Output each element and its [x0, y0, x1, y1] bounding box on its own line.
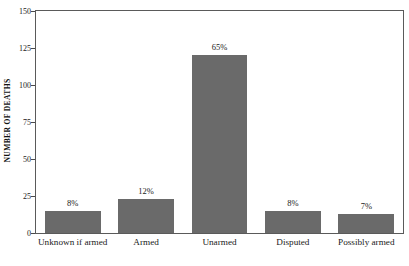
- bar: [338, 214, 394, 233]
- bar-group: 7%: [338, 11, 394, 233]
- bar-group: 65%: [192, 11, 248, 233]
- bar: [265, 211, 321, 233]
- x-axis-category-label: Disputed: [256, 237, 329, 247]
- y-axis-title-text: NUMBER OF DEATHS: [3, 78, 12, 162]
- y-axis-tick-mark: [31, 48, 35, 49]
- bar-value-label: 12%: [118, 186, 174, 196]
- x-axis-category-label: Unarmed: [183, 237, 256, 247]
- y-axis-tick-mark: [31, 11, 35, 12]
- y-axis-tick-mark: [31, 196, 35, 197]
- x-axis-category-labels: Unknown if armedArmedUnarmedDisputedPoss…: [36, 237, 403, 257]
- bar-value-label: 8%: [45, 198, 101, 208]
- y-axis-tick-mark: [31, 85, 35, 86]
- bar-value-label: 7%: [338, 201, 394, 211]
- y-axis-tick-label: 150: [19, 7, 31, 16]
- x-axis-category-label: Possibly armed: [330, 237, 403, 247]
- y-axis-tick-label: 100: [19, 81, 31, 90]
- bar: [118, 199, 174, 233]
- bar: [192, 55, 248, 233]
- y-axis-tick-mark: [31, 233, 35, 234]
- y-axis-tick-label: 25: [23, 192, 31, 201]
- y-axis-tick-mark: [31, 122, 35, 123]
- y-axis-tick-label: 125: [19, 44, 31, 53]
- bar-value-label: 8%: [265, 198, 321, 208]
- bars-area: 8%12%65%8%7%: [36, 11, 403, 233]
- x-axis-category-label: Armed: [109, 237, 182, 247]
- y-axis-tick-labels: 0255075100125150: [12, 0, 33, 240]
- bar-group: 8%: [45, 11, 101, 233]
- y-axis-tick-label: 75: [23, 118, 31, 127]
- bar-group: 12%: [118, 11, 174, 233]
- bar-value-label: 65%: [192, 42, 248, 52]
- y-axis-tick-label: 50: [23, 155, 31, 164]
- bar-chart: NUMBER OF DEATHS 0255075100125150 8%12%6…: [0, 0, 409, 266]
- bar: [45, 211, 101, 233]
- x-axis-category-label: Unknown if armed: [36, 237, 109, 247]
- bar-group: 8%: [265, 11, 321, 233]
- y-axis-tick-mark: [31, 159, 35, 160]
